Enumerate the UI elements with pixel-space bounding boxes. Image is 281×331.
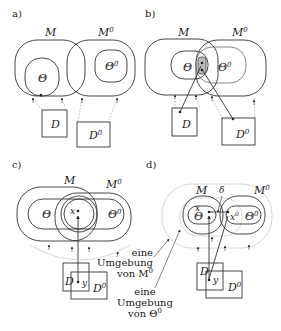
- label-x: x: [70, 206, 75, 216]
- label-delta: δ: [219, 185, 224, 195]
- label-y: y: [212, 275, 219, 285]
- neighborhood-x: [61, 196, 97, 232]
- label-D0: D0: [88, 129, 103, 142]
- panel-a-label: a): [12, 8, 22, 19]
- label-x0: x0: [230, 210, 239, 222]
- panel-c-label: c): [12, 159, 22, 170]
- label-M: M: [44, 26, 57, 39]
- label-Theta: Θ: [38, 72, 47, 85]
- label-M0: M0: [105, 178, 122, 191]
- panel-b-label: b): [145, 8, 155, 19]
- label-D0: D0: [235, 128, 250, 141]
- label-Theta0: Θ0: [108, 208, 122, 221]
- label-D0: D0: [92, 282, 107, 295]
- intersection-region: [198, 57, 206, 74]
- panel-d: d) M M0 δ Θ x x0 Θ0 y D D0 eine Umgeb: [97, 159, 272, 319]
- svg-text:Umgebung: Umgebung: [97, 257, 154, 268]
- panel-d-label: d): [146, 159, 156, 170]
- label-Theta0: Θ0: [218, 61, 232, 74]
- annotation-neighborhood-M0: eine Umgebung von M0: [97, 239, 169, 279]
- svg-text:eine: eine: [134, 286, 156, 297]
- label-Theta: Θ: [183, 61, 192, 74]
- label-Theta: Θ: [42, 208, 51, 221]
- panel-c: c) M M0 Θ Θ0 x y D D0: [12, 159, 131, 299]
- panel-b: b) M M0 Θ Θ0 D D0: [145, 8, 266, 145]
- label-D0: D0: [227, 281, 242, 294]
- label-x: x: [195, 203, 200, 213]
- svg-text:von Θ0: von Θ0: [127, 307, 162, 319]
- label-D: D: [181, 118, 191, 131]
- label-D: D: [64, 275, 74, 288]
- label-M0: M0: [97, 26, 114, 39]
- svg-text:Umgebung: Umgebung: [117, 297, 174, 308]
- label-M: M: [177, 26, 190, 39]
- set-M0: [55, 193, 131, 241]
- diagram: a) M M0 Θ Θ0 D D0 b) M M0 Θ Θ0: [0, 0, 281, 331]
- svg-text:von M0: von M0: [116, 267, 153, 279]
- label-Theta0: Θ0: [105, 60, 119, 73]
- point: [40, 94, 43, 97]
- label-D: D: [50, 118, 60, 131]
- label-y: y: [81, 278, 88, 288]
- label-Theta0: Θ0: [245, 210, 259, 223]
- label-D: D: [199, 265, 209, 278]
- set-M: [17, 187, 97, 241]
- set-M: [15, 40, 85, 96]
- label-M0: M0: [231, 26, 248, 39]
- label-M: M: [195, 184, 208, 197]
- label-M: M: [63, 174, 76, 187]
- label-M0: M0: [253, 184, 270, 197]
- panel-a: a) M M0 Θ Θ0 D D0: [12, 8, 135, 147]
- set-M0: [67, 40, 135, 96]
